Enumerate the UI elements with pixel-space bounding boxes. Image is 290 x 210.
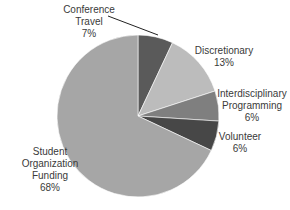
label-student-organization-funding: Student Organization Funding 68% [14,146,86,194]
label-discretionary: Discretionary 13% [188,45,260,69]
label-interdisciplinary-programming: Interdisciplinary Programming 6% [214,88,290,124]
label-volunteer: Volunteer 6% [212,131,268,155]
label-conference-travel: Conference Travel 7% [58,4,120,40]
